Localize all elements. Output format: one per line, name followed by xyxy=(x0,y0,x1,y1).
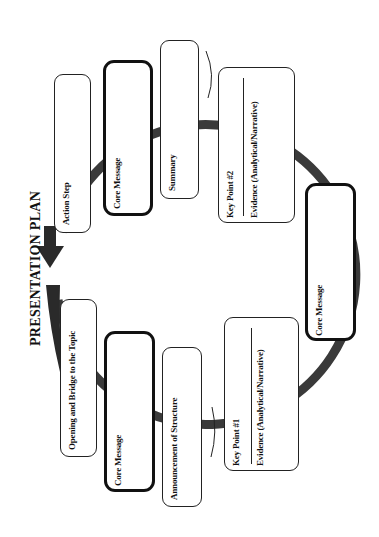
step-core-message-3: Core Message xyxy=(103,60,153,216)
divider-line xyxy=(243,78,244,216)
step-label: Summary xyxy=(167,154,177,191)
break-mark-top xyxy=(206,51,212,98)
step-core-message-2: Core Message xyxy=(305,183,356,341)
step-label: Key Point #1 xyxy=(231,419,241,466)
step-label: Core Message xyxy=(314,285,324,336)
step-label: Key Point #2 xyxy=(225,171,235,218)
step-sublabel: Evidence (Analytical/Narrative) xyxy=(249,101,259,218)
step-core-message-1: Core Message xyxy=(104,331,155,492)
step-sublabel: Evidence (Analytical/Narrative) xyxy=(255,349,265,466)
presentation-plan-diagram: PRESENTATION PLAN Action Step Core Messa… xyxy=(0,0,379,537)
step-key-point-1: Key Point #1 Evidence (Analytical/Narrat… xyxy=(224,317,299,471)
break-mark-bottom xyxy=(211,407,215,457)
step-label: Action Step xyxy=(61,182,71,225)
arrow-shaft xyxy=(44,226,56,248)
step-key-point-2: Key Point #2 Evidence (Analytical/Narrat… xyxy=(218,67,295,223)
step-summary: Summary xyxy=(160,40,199,199)
divider-line xyxy=(251,328,252,464)
step-announcement: Announcement of Structure xyxy=(162,347,202,507)
diagram-title: PRESENTATION PLAN xyxy=(28,191,44,346)
step-label: Core Message xyxy=(113,435,123,486)
step-action: Action Step xyxy=(54,74,91,233)
step-opening: Opening and Bridge to the Topic xyxy=(60,299,97,457)
step-label: Core Message xyxy=(112,158,122,209)
step-label: Announcement of Structure xyxy=(169,398,179,500)
step-label: Opening and Bridge to the Topic xyxy=(67,331,77,450)
